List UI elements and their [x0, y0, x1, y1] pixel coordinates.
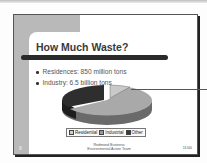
presentation-slide: How Much Waste? Residences: 850 million … — [13, 14, 198, 155]
slide-number: 8 — [19, 145, 22, 151]
legend-swatch — [126, 130, 131, 135]
legend-swatch — [99, 130, 104, 135]
pie-chart — [56, 84, 156, 128]
legend-swatch — [69, 130, 74, 135]
bullet-item: Residences: 850 million tons — [36, 66, 126, 77]
legend-label: Other — [132, 130, 143, 135]
legend-label: Industrial — [105, 130, 123, 135]
bullet-text: Residences: 850 million tons — [43, 68, 127, 75]
slide-title: How Much Waste? — [36, 41, 128, 53]
title-underline-bar — [21, 55, 168, 60]
legend-item-other: Other — [126, 130, 143, 135]
legend-item-residential: Residential — [69, 130, 97, 135]
legend-label: Residential — [75, 130, 97, 135]
slide-footer: Redmond Business Environmental Action Te… — [74, 143, 144, 151]
slide-date: 11/00 — [183, 146, 192, 150]
window-top-edge — [0, 0, 207, 3]
legend-item-industrial: Industrial — [99, 130, 123, 135]
chart-legend: Residential Industrial Other — [66, 128, 146, 137]
footer-line: Environmental Action Team — [74, 147, 144, 151]
slide-left-strip — [14, 15, 29, 154]
callout-line — [131, 89, 207, 90]
slide-top-block — [14, 15, 80, 32]
bullet-icon — [36, 82, 39, 85]
bullet-icon — [36, 71, 39, 74]
